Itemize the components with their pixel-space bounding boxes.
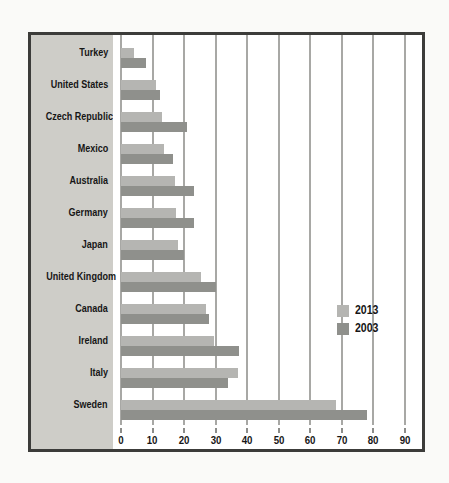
x-tick-label-0: 0 bbox=[106, 434, 136, 446]
bar-2003-czech-republic bbox=[121, 122, 187, 132]
bar-2013-mexico bbox=[121, 144, 164, 154]
category-label: Ireland bbox=[31, 335, 108, 346]
category-label: Germany bbox=[31, 207, 108, 218]
bar-group-united-kingdom: United Kingdom bbox=[31, 272, 422, 304]
bar-2013-australia bbox=[121, 176, 175, 186]
category-label: Italy bbox=[31, 367, 108, 378]
bar-2003-ireland bbox=[121, 346, 239, 356]
bar-group-czech-republic: Czech Republic bbox=[31, 112, 422, 144]
bar-2013-czech-republic bbox=[121, 112, 162, 122]
legend-item-2003: 2003 bbox=[337, 322, 382, 335]
bar-2013-germany bbox=[121, 208, 176, 218]
bar-2003-united-states bbox=[121, 90, 160, 100]
legend: 20132003 bbox=[337, 304, 382, 340]
bar-group-mexico: Mexico bbox=[31, 144, 422, 176]
x-tick-label-80: 80 bbox=[358, 434, 388, 446]
bar-2013-sweden bbox=[121, 400, 336, 410]
x-tick-label-60: 60 bbox=[295, 434, 325, 446]
bar-2003-italy bbox=[121, 378, 228, 388]
bar-2003-japan bbox=[121, 250, 184, 260]
category-label: Mexico bbox=[31, 143, 108, 154]
bar-2003-australia bbox=[121, 186, 194, 196]
legend-label: 2013 bbox=[355, 304, 378, 317]
bar-group-germany: Germany bbox=[31, 208, 422, 240]
x-tick-label-40: 40 bbox=[232, 434, 262, 446]
x-tick-label-50: 50 bbox=[264, 434, 294, 446]
x-tick-label-70: 70 bbox=[327, 434, 357, 446]
category-label: Canada bbox=[31, 303, 108, 314]
x-tick-label-10: 10 bbox=[138, 434, 168, 446]
bar-group-ireland: Ireland bbox=[31, 336, 422, 368]
legend-label: 2003 bbox=[355, 322, 378, 335]
bar-group-australia: Australia bbox=[31, 176, 422, 208]
bar-2013-canada bbox=[121, 304, 206, 314]
bar-rows: TurkeyUnited StatesCzech RepublicMexicoA… bbox=[31, 48, 422, 432]
category-label: Czech Republic bbox=[31, 111, 108, 122]
bar-2013-united-states bbox=[121, 80, 156, 90]
legend-swatch-2003 bbox=[337, 323, 349, 335]
category-label: Japan bbox=[31, 239, 108, 250]
bar-group-japan: Japan bbox=[31, 240, 422, 272]
bar-2003-germany bbox=[121, 218, 194, 228]
bar-2003-mexico bbox=[121, 154, 173, 164]
bar-2013-ireland bbox=[121, 336, 214, 346]
bar-2003-united-kingdom bbox=[121, 282, 216, 292]
bar-group-sweden: Sweden bbox=[31, 400, 422, 432]
x-tick-label-90: 90 bbox=[390, 434, 420, 446]
bar-2013-united-kingdom bbox=[121, 272, 201, 282]
category-label: Turkey bbox=[31, 47, 108, 58]
bar-2003-canada bbox=[121, 314, 209, 324]
x-tick-label-30: 30 bbox=[201, 434, 231, 446]
bar-2003-turkey bbox=[121, 58, 146, 68]
category-label: United States bbox=[31, 79, 108, 90]
bar-group-united-states: United States bbox=[31, 80, 422, 112]
x-tick-label-20: 20 bbox=[169, 434, 199, 446]
category-label: United Kingdom bbox=[31, 271, 108, 282]
bar-2013-turkey bbox=[121, 48, 134, 58]
bar-group-italy: Italy bbox=[31, 368, 422, 400]
bar-2003-sweden bbox=[121, 410, 367, 420]
bar-group-turkey: Turkey bbox=[31, 48, 422, 80]
chart-frame: TurkeyUnited StatesCzech RepublicMexicoA… bbox=[28, 32, 425, 452]
category-label: Sweden bbox=[31, 399, 108, 410]
bar-2013-japan bbox=[121, 240, 178, 250]
bar-2013-italy bbox=[121, 368, 238, 378]
legend-swatch-2013 bbox=[337, 305, 349, 317]
category-label: Australia bbox=[31, 175, 108, 186]
legend-item-2013: 2013 bbox=[337, 304, 382, 317]
